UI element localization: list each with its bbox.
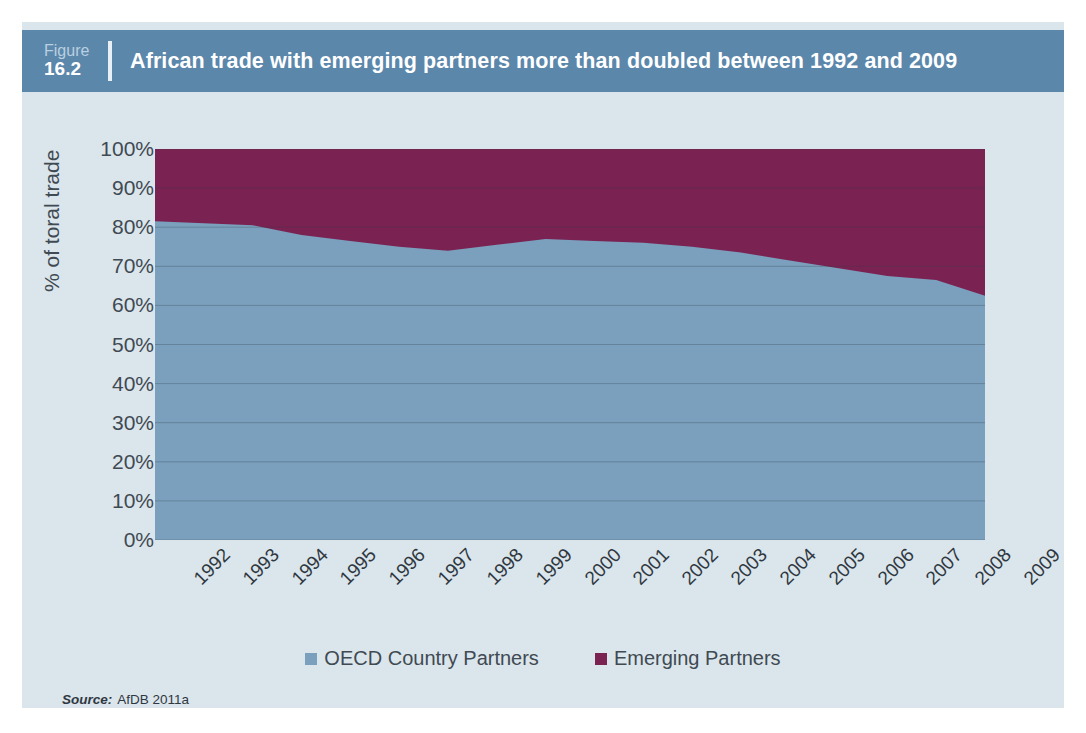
x-axis-tick: 1999 [531,544,576,589]
y-axis-tick: 80% [112,215,154,239]
legend-item[interactable]: OECD Country Partners [305,647,539,670]
legend-item[interactable]: Emerging Partners [595,647,781,670]
x-axis-tick: 2001 [629,544,674,589]
legend-swatch-icon [305,653,317,665]
y-axis-title: % of toral trade [40,92,64,292]
x-axis-tick: 2003 [726,544,771,589]
y-axis-tick: 90% [112,176,154,200]
y-axis-tick-labels: 100%90%80%70%60%50%40%30%20%10%0% [82,149,154,540]
x-axis-tick: 1997 [433,544,478,589]
legend-label: Emerging Partners [614,647,781,670]
x-axis-tick: 2009 [1019,544,1064,589]
x-axis-tick: 1998 [482,544,527,589]
figure-title: African trade with emerging partners mor… [130,49,957,74]
y-axis-tick: 100% [100,137,154,161]
legend-swatch-icon [595,653,607,665]
chart-legend: OECD Country PartnersEmerging Partners [22,647,1064,670]
figure-label: Figure [44,42,108,59]
y-axis-tick: 30% [112,411,154,435]
figure-number-block: Figure 16.2 [22,42,108,80]
x-axis-tick: 1994 [287,544,332,589]
x-axis-tick: 2006 [873,544,918,589]
x-axis-tick: 1995 [336,544,381,589]
y-axis-tick: 40% [112,372,154,396]
y-axis-tick: 60% [112,293,154,317]
source-value: AfDB 2011a [117,692,189,707]
figure-header-band: Figure 16.2 African trade with emerging … [22,30,1064,92]
x-axis-tick: 1993 [238,544,283,589]
y-axis-tick: 10% [112,489,154,513]
source-label: Source: [62,692,112,707]
source-note: Source:AfDB 2011a [62,692,189,707]
x-axis-tick: 2008 [971,544,1016,589]
x-axis-tick: 2000 [580,544,625,589]
x-axis-tick: 1996 [385,544,430,589]
stacked-area-svg [155,149,985,540]
legend-label: OECD Country Partners [324,647,539,670]
y-axis-tick: 50% [112,333,154,357]
figure-panel: Figure 16.2 African trade with emerging … [22,22,1064,708]
y-axis-tick: 70% [112,254,154,278]
x-axis-tick: 2007 [922,544,967,589]
x-axis-tick: 1992 [189,544,234,589]
header-divider [108,41,112,81]
y-axis-tick: 0% [124,528,154,552]
chart-region: % of toral trade 100%90%80%70%60%50%40%3… [22,92,1064,708]
x-axis-tick-labels: 1992199319941995199619971998199920002001… [155,544,985,639]
x-axis-tick: 2002 [678,544,723,589]
x-axis-tick: 2005 [824,544,869,589]
figure-number: 16.2 [44,59,108,80]
plot-area [155,149,985,540]
y-axis-tick: 20% [112,450,154,474]
x-axis-tick: 2004 [775,544,820,589]
